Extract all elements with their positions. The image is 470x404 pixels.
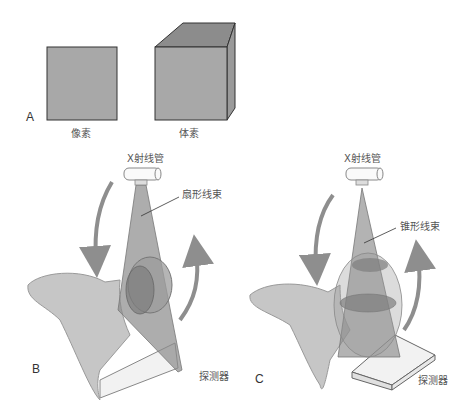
xray-tube-c — [346, 168, 383, 185]
panel-b-letter: B — [32, 362, 40, 376]
figure: A 像素 体素 B X射线管 扇形线束 探测器 — [0, 0, 470, 404]
detector-label-b: 探测器 — [199, 370, 229, 382]
voxel-label: 体素 — [179, 127, 199, 139]
detector-label-c: 探测器 — [418, 374, 448, 386]
panel-a: A 像素 体素 — [26, 23, 235, 139]
panel-c: C X射线管 锥形线束 探测器 — [250, 152, 448, 390]
voxel-cube — [155, 23, 235, 120]
panel-a-letter: A — [26, 110, 34, 124]
tube-label-b: X射线管 — [127, 152, 164, 164]
fan-beam-label: 扇形线束 — [182, 188, 222, 200]
cone-beam-label: 锥形线束 — [400, 220, 440, 232]
pixel-square — [47, 47, 117, 120]
rotation-arrow-up-b — [180, 250, 197, 320]
head-cylinder-c — [334, 253, 402, 357]
rotation-arrow-down-b — [96, 182, 112, 262]
xray-tube-b — [124, 168, 161, 185]
pixel-label: 像素 — [71, 127, 91, 139]
panel-b: B X射线管 扇形线束 探测器 — [28, 152, 229, 400]
rotation-arrow-down-c — [316, 195, 333, 270]
panel-c-letter: C — [255, 372, 264, 386]
tube-label-c: X射线管 — [344, 152, 381, 164]
rotation-arrow-up-c — [404, 255, 419, 330]
